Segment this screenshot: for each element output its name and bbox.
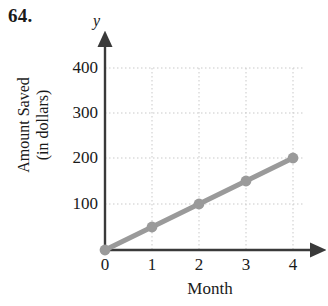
data-point-month-0 xyxy=(100,245,111,256)
plot-area xyxy=(0,0,328,306)
chart-figure: 64. y Amount Saved (in dollars) Month 40… xyxy=(0,0,328,306)
data-point-month-2 xyxy=(194,199,205,210)
data-point-month-4 xyxy=(288,153,299,164)
axes xyxy=(105,45,312,250)
data-point-month-3 xyxy=(241,176,252,187)
gridlines xyxy=(105,68,305,250)
data-point-month-1 xyxy=(147,222,158,233)
